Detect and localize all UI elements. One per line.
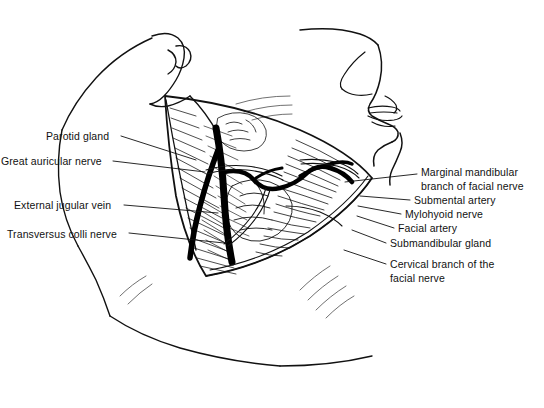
label-submental-artery: Submental artery — [414, 194, 496, 208]
label-transversus-colli-nerve: Transversus colli nerve — [7, 228, 117, 242]
label-external-jugular-vein: External jugular vein — [14, 199, 111, 213]
label-cervical-branch-of-the-facial-nerve: Cervical branch of the facial nerve — [390, 258, 518, 285]
label-mylohyoid-nerve: Mylohyoid nerve — [405, 208, 483, 222]
label-marginal-mandibular-branch-of-facial-nerve: Marginal mandibular branch of facial ner… — [421, 166, 544, 193]
label-parotid-gland: Parotid gland — [46, 130, 109, 144]
label-great-auricular-nerve: Great auricular nerve — [1, 155, 102, 169]
label-facial-artery: Facial artery — [398, 222, 457, 236]
label-submandibular-gland: Submandibular gland — [390, 237, 491, 251]
illustration-figure: Parotid gland Great auricular nerve Exte… — [0, 0, 544, 408]
